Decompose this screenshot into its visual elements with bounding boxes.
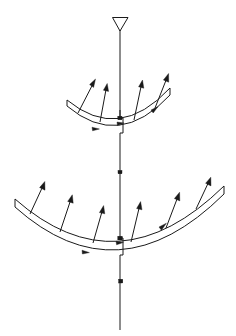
central-vertical-axis: [113, 18, 129, 331]
arc-direction-arrow-icon: [151, 107, 158, 113]
axis-node-marker: [119, 279, 123, 283]
axis-node-marker: [118, 236, 122, 240]
radial-load-arrow: [134, 80, 144, 120]
diagram-canvas: [0, 0, 236, 336]
radial-load-arrow: [60, 195, 73, 232]
axis-node-marker: [118, 170, 122, 173]
radial-load-arrow: [100, 84, 109, 123]
axis-tip-triangle-down-icon: [113, 18, 129, 32]
arc-direction-arrow-icon: [82, 250, 89, 254]
arc-direction-arrow-icon: [92, 127, 99, 131]
radial-load-arrow: [30, 182, 45, 215]
shell-load-diagram: [0, 0, 236, 336]
radial-load-arrow: [131, 202, 142, 242]
arc-direction-arrow-icon: [116, 241, 123, 245]
radial-load-arrow: [93, 206, 105, 243]
radial-load-arrow: [78, 79, 96, 113]
